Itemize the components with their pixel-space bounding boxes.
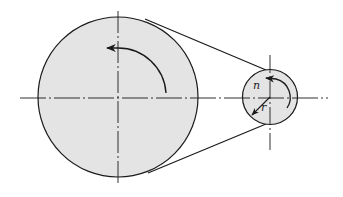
diagram-canvas: n r — [0, 0, 343, 197]
radius-label: r — [261, 101, 267, 114]
speed-label: n — [253, 79, 260, 92]
belt-drive-diagram: n r — [0, 0, 343, 197]
